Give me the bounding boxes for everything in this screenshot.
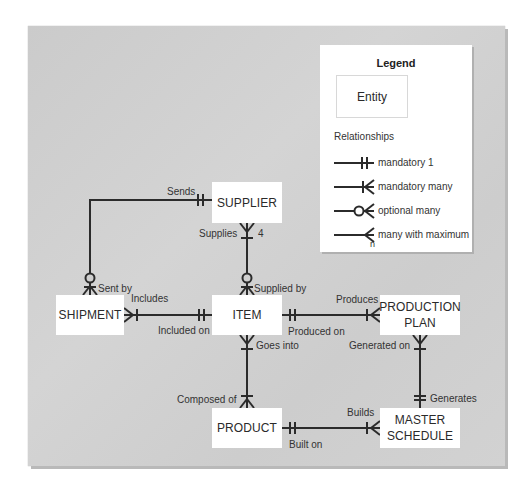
entity-master-schedule-label-line1: MASTER [395, 412, 446, 428]
rel-label-supplied-by: Supplied by [254, 283, 306, 295]
entity-product: PRODUCT [212, 408, 282, 448]
rel-label-produced-on: Produced on [288, 326, 345, 338]
rel-label-supplies-max: 4 [258, 228, 264, 240]
rel-label-produces: Produces [336, 294, 378, 306]
rel-label-built-on: Built on [289, 439, 322, 451]
entity-production-plan-label-line2: PLAN [404, 315, 436, 331]
entity-item: ITEM [212, 295, 282, 335]
entity-item-label: ITEM [232, 307, 261, 323]
legend-item-mandatory-one: mandatory 1 [378, 157, 434, 168]
rel-label-generates: Generates [430, 393, 477, 405]
many-with-maximum-icon [334, 228, 374, 242]
entity-shipment: SHIPMENT [56, 295, 124, 335]
optional-many-icon [334, 204, 374, 218]
rel-label-composed-of: Composed of [177, 394, 236, 406]
entity-supplier-label: SUPPLIER [217, 195, 277, 211]
entity-master-schedule: MASTER SCHEDULE [380, 408, 460, 448]
rel-label-sends: Sends [167, 186, 195, 198]
entity-master-schedule-label-line2: SCHEDULE [387, 428, 453, 444]
legend-max-n-label: n [370, 239, 375, 249]
rel-label-included-on: Included on [158, 325, 210, 337]
legend-item-optional-many: optional many [378, 205, 440, 216]
mandatory-many-icon [334, 180, 374, 194]
entity-supplier: SUPPLIER [212, 182, 282, 223]
legend-symbols [320, 45, 472, 252]
rel-label-includes: Includes [131, 293, 168, 305]
rel-label-sent-by: Sent by [98, 283, 132, 295]
rel-label-supplies: Supplies [199, 228, 237, 240]
rel-label-goes-into: Goes into [256, 340, 299, 352]
entity-production-plan: PRODUCTION PLAN [380, 295, 460, 335]
legend-item-many-with-maximum: many with maximum [378, 229, 469, 240]
rel-label-generated-on: Generated on [349, 340, 410, 352]
rel-label-builds: Builds [347, 407, 374, 419]
legend-item-mandatory-many: mandatory many [378, 181, 452, 192]
entity-product-label: PRODUCT [217, 420, 277, 436]
entity-shipment-label: SHIPMENT [59, 307, 122, 323]
mandatory-one-icon [334, 157, 374, 169]
legend-panel: Legend Entity Relationships [320, 45, 472, 252]
entity-production-plan-label-line1: PRODUCTION [379, 299, 461, 315]
